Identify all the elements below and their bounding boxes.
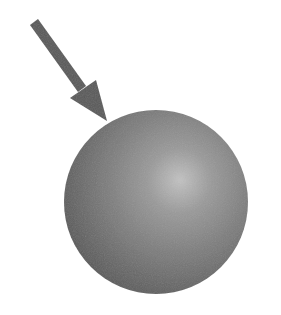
arrow-shaft <box>30 19 86 92</box>
sphere-body <box>64 110 248 294</box>
sphere <box>64 110 248 294</box>
diagram-canvas <box>0 0 281 315</box>
arrow-icon <box>30 19 107 121</box>
